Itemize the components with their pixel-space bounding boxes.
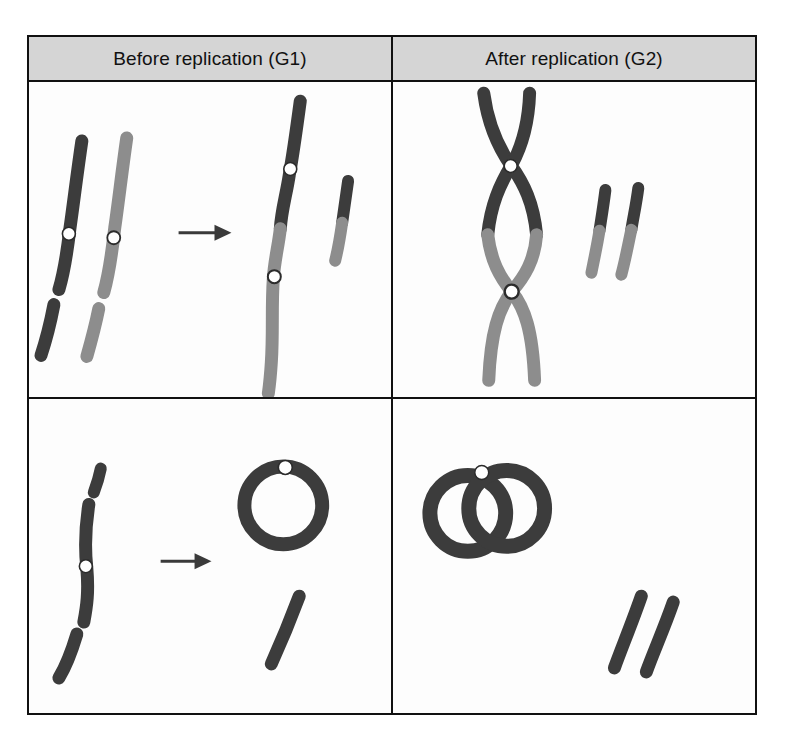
centromere-icon bbox=[268, 270, 281, 283]
homolog-gray-short-fragment bbox=[87, 309, 99, 357]
centromere-icon bbox=[505, 285, 519, 299]
bar-2-dark-half bbox=[631, 188, 638, 230]
sister-chromatid-bar-2 bbox=[621, 188, 638, 275]
panel-g2-linear-graphic bbox=[393, 82, 755, 397]
small-chromosome bbox=[335, 181, 348, 261]
column-header-after-replication: After replication (G2) bbox=[393, 37, 755, 80]
homolog-dark-short-fragment bbox=[41, 305, 54, 356]
centromere-icon bbox=[504, 159, 517, 172]
panel-g2-circular-graphic bbox=[393, 399, 755, 714]
replicated-x-chromosome-gray bbox=[488, 235, 537, 381]
homolog-dark-long-arm bbox=[59, 141, 82, 290]
panel-g2-circular bbox=[393, 399, 755, 714]
figure-header-row: Before replication (G1) After replicatio… bbox=[29, 37, 755, 82]
linear-chromosome-bottom-fragment bbox=[59, 634, 77, 678]
column-header-label: Before replication (G1) bbox=[113, 48, 306, 70]
linear-chromosome-top-cap bbox=[94, 468, 101, 492]
figure-row-prokaryotic bbox=[29, 399, 755, 714]
small-chromosome-dark-half bbox=[342, 181, 348, 223]
centromere-icon bbox=[284, 162, 297, 175]
centromere-icon bbox=[475, 465, 489, 479]
panel-g1-circular bbox=[29, 399, 393, 714]
centromere-icon bbox=[107, 231, 120, 244]
centromere-icon bbox=[278, 460, 292, 474]
sister-chromatid-bar-1 bbox=[591, 190, 605, 273]
homolog-gray bbox=[87, 138, 127, 356]
circular-chromosome bbox=[244, 460, 322, 544]
replicated-x-chromosome-dark bbox=[484, 93, 537, 235]
homolog-gray-long-arm bbox=[104, 138, 127, 293]
centromere-icon bbox=[79, 559, 92, 572]
panel-g1-linear bbox=[29, 82, 393, 397]
linear-fragment-1 bbox=[614, 596, 641, 668]
homolog-dark bbox=[41, 141, 82, 355]
bar-2-gray-half bbox=[621, 230, 631, 275]
merged-chromosome bbox=[268, 101, 300, 393]
replication-arrow bbox=[161, 553, 212, 569]
centromere-icon bbox=[62, 227, 75, 240]
arrow-head-icon bbox=[214, 225, 231, 241]
arrow-head-icon bbox=[195, 553, 212, 569]
circular-chromosome-ring bbox=[244, 466, 322, 544]
panel-g1-circular-graphic bbox=[29, 399, 391, 714]
small-chromosome-gray-half bbox=[335, 223, 342, 261]
bar-1-gray-half bbox=[591, 231, 599, 273]
figure-row-eukaryotic bbox=[29, 82, 755, 399]
merged-chromosome-gray-arm bbox=[268, 229, 280, 394]
chromosome-replication-figure: Before replication (G1) After replicatio… bbox=[27, 35, 757, 715]
panel-g1-linear-graphic bbox=[29, 82, 391, 397]
column-header-before-replication: Before replication (G1) bbox=[29, 37, 393, 80]
linear-chromosome bbox=[59, 468, 101, 677]
replication-arrow bbox=[179, 225, 232, 241]
replicated-circular-chromosome-pair bbox=[430, 465, 545, 551]
column-header-label: After replication (G2) bbox=[485, 48, 663, 70]
bar-1-dark-half bbox=[599, 190, 605, 231]
panel-g2-linear bbox=[393, 82, 755, 397]
linear-fragment-2 bbox=[646, 602, 673, 672]
linear-fragment bbox=[271, 596, 299, 664]
